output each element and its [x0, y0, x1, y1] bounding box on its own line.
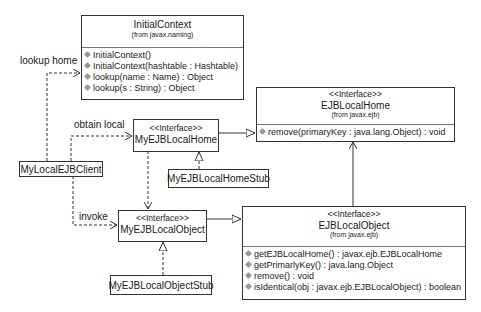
class-package: (from javax.ejb) — [257, 111, 454, 119]
operations-compartment: InitialContext() InitialContext(hashtabl… — [82, 47, 243, 96]
label-lookup-home: lookup home — [20, 55, 77, 66]
operation: getPrimarlyKey() : java.lang.Object — [246, 260, 465, 271]
operation-icon — [84, 73, 91, 80]
class-name: InitialContext — [82, 19, 243, 31]
operations-compartment: remove(primaryKey : java.lang.Object) : … — [257, 124, 454, 140]
operation-icon — [259, 128, 266, 135]
class-name: MyLocalEJBClient — [20, 164, 101, 175]
operation: InitialContext(hashtable : Hashtable) — [85, 61, 243, 72]
operations-compartment: getEJBLocalHome() : javax.ejb.EJBLocalHo… — [243, 246, 465, 295]
operation: remove() : void — [246, 271, 465, 282]
operation: remove(primaryKey : java.lang.Object) : … — [260, 127, 454, 138]
operation-icon — [245, 250, 252, 257]
label-invoke: invoke — [79, 211, 108, 222]
class-package: (from javax.naming) — [82, 31, 243, 39]
interface-my-ejb-local-object[interactable]: <<Interface>> MyEJBLocalObject — [118, 210, 207, 242]
operation: lookup(name : Name) : Object — [85, 72, 243, 83]
lookup-home-edge — [47, 73, 80, 161]
stereotype: <<Interface>> — [134, 124, 218, 134]
operation-icon — [245, 272, 252, 279]
operation-icon — [84, 84, 91, 91]
stereotype: <<Interface>> — [119, 214, 206, 224]
interface-ejb-local-home[interactable]: <<Interface>> EJBLocalHome (from javax.e… — [256, 87, 455, 142]
obtain-local-edge — [71, 136, 132, 161]
operation-icon — [84, 62, 91, 69]
class-name: MyEJBLocalObjectStub — [108, 280, 213, 291]
class-name: EJBLocalObject — [243, 220, 465, 232]
class-my-ejb-local-home-stub[interactable]: MyEJBLocalHomeStub — [168, 169, 269, 188]
interface-my-ejb-local-home[interactable]: <<Interface>> MyEJBLocalHome — [133, 119, 219, 152]
operation-icon — [84, 51, 91, 58]
operation: lookup(s : String) : Object — [85, 83, 243, 94]
class-initial-context[interactable]: InitialContext (from javax.naming) Initi… — [81, 15, 244, 100]
class-my-local-ejb-client[interactable]: MyLocalEJBClient — [19, 161, 103, 177]
interface-ejb-local-object[interactable]: <<Interface>> EJBLocalObject (from javax… — [242, 206, 466, 300]
class-name: EJBLocalHome — [257, 100, 454, 112]
stereotype: <<Interface>> — [243, 210, 465, 220]
class-name: MyEJBLocalHome — [134, 134, 218, 146]
stereotype: <<Interface>> — [257, 90, 454, 100]
operation-icon — [245, 283, 252, 290]
operation: getEJBLocalHome() : javax.ejb.EJBLocalHo… — [246, 249, 465, 260]
class-my-ejb-local-object-stub[interactable]: MyEJBLocalObjectStub — [110, 275, 212, 295]
label-obtain-local: obtain local — [74, 119, 125, 130]
operation-icon — [245, 261, 252, 268]
class-name: MyEJBLocalHomeStub — [167, 173, 270, 184]
class-package: (from javax.ejb) — [243, 231, 465, 239]
class-name: MyEJBLocalObject — [119, 224, 206, 236]
operation: isIdentical(obj : javax.ejb.EJBLocalObje… — [246, 282, 465, 293]
operation: InitialContext() — [85, 50, 243, 61]
